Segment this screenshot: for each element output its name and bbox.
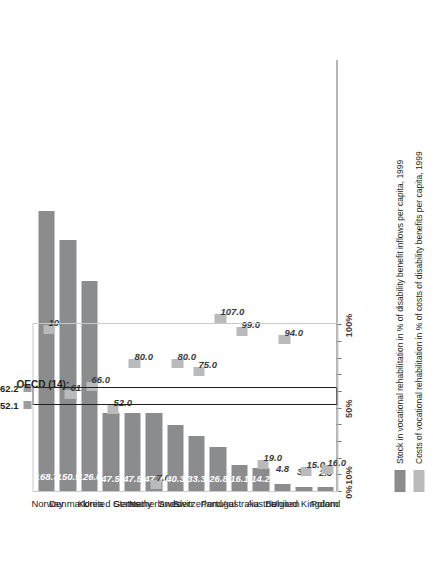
oecd-reference-label-0: 52.1 bbox=[0, 400, 18, 411]
marker-denmark: 61.0 bbox=[64, 390, 75, 399]
bar-austria: 14.2 bbox=[252, 468, 268, 492]
axis-tick-label: 0% bbox=[343, 485, 353, 498]
legend-swatch-costs-icon bbox=[413, 470, 424, 492]
marker-value-label: 80.0 bbox=[134, 350, 153, 361]
marker-belgium: 94.0 bbox=[278, 335, 289, 344]
bar-germany: 47.5 bbox=[124, 413, 140, 492]
axis-tick-label: 50% bbox=[343, 399, 353, 418]
marker-value-label: 80.0 bbox=[177, 350, 196, 361]
axis-tick bbox=[336, 424, 341, 425]
axis-tick bbox=[336, 491, 341, 492]
axis-tick bbox=[336, 358, 341, 359]
marker-germany: 80.0 bbox=[128, 359, 139, 368]
chart-canvas: 0%10%50%100% 168.7100.0150.961.0126.666.… bbox=[0, 0, 437, 566]
legend-label-costs: Costs of vocational rehabilitation in % … bbox=[413, 151, 423, 464]
bar-denmark: 150.9 bbox=[59, 241, 75, 493]
bar-united-states: 47.5 bbox=[102, 413, 118, 492]
bar-value-label: 150.9 bbox=[56, 471, 80, 482]
marker-value-label: 66.0 bbox=[91, 374, 110, 385]
bar-united-kingdom: 3.1 bbox=[295, 487, 311, 492]
marker-value-label: 99.0 bbox=[241, 319, 260, 330]
marker-netherlands: 7.0 bbox=[150, 480, 161, 489]
marker-norway: 100.0 bbox=[43, 325, 54, 334]
axis-tick bbox=[336, 341, 341, 342]
oecd-reference-bracket-1 bbox=[336, 388, 337, 405]
oecd-reference-title: OECD (14): bbox=[16, 379, 69, 390]
marker-value-label: 19.0 bbox=[263, 452, 282, 463]
legend-swatch-stock-icon bbox=[394, 470, 405, 492]
marker-value-label: 75.0 bbox=[198, 359, 217, 370]
bar-poland: 2.8 bbox=[317, 487, 333, 492]
bar-value-label: 40.3 bbox=[166, 473, 185, 484]
axis-tick bbox=[336, 374, 341, 375]
bar-portugal: 26.8 bbox=[209, 447, 225, 492]
axis-tick bbox=[336, 474, 341, 475]
legend-label-stock: Stock in vocational rehabilitation in % … bbox=[394, 160, 404, 464]
bar-value-label: 4.8 bbox=[275, 463, 288, 474]
bar-switzerland: 33.3 bbox=[188, 437, 204, 493]
marker-value-label: 16.0 bbox=[327, 457, 346, 468]
marker-austria: 19.0 bbox=[257, 460, 268, 469]
axis-tick-label: 10% bbox=[343, 466, 353, 485]
marker-united-states: 52.0 bbox=[107, 405, 118, 414]
marker-sweden: 80.0 bbox=[171, 359, 182, 368]
marker-value-label: 94.0 bbox=[284, 327, 303, 338]
oecd-reference-bracket-0 bbox=[32, 388, 33, 405]
marker-portugal: 107.0 bbox=[214, 314, 225, 323]
bar-value-label: 126.6 bbox=[77, 471, 101, 482]
bar-value-label: 16.1 bbox=[230, 473, 249, 484]
bar-sweden: 40.3 bbox=[167, 425, 183, 492]
oecd-reference-marker-0 bbox=[23, 401, 31, 409]
oecd-reference-line-0 bbox=[32, 404, 336, 405]
axis-tick-label: 100% bbox=[343, 313, 353, 337]
marker-united-kingdom: 15.0 bbox=[300, 467, 311, 476]
marker-poland: 16.0 bbox=[321, 465, 332, 474]
bar-norway: 168.7 bbox=[38, 211, 54, 492]
oecd-reference-label-1: 62.2 bbox=[0, 383, 18, 394]
marker-value-label: 52.0 bbox=[113, 397, 132, 408]
oecd-reference-line-1 bbox=[32, 387, 336, 388]
axis-tick bbox=[336, 408, 341, 409]
marker-value-label: 107.0 bbox=[220, 305, 244, 316]
category-label-poland: Poland bbox=[310, 498, 340, 509]
marker-switzerland: 75.0 bbox=[193, 367, 204, 376]
bar-belgium: 4.8 bbox=[274, 484, 290, 492]
marker-australia: 99.0 bbox=[236, 327, 247, 336]
axis-tick bbox=[336, 324, 341, 325]
bar-value-label: 47.5 bbox=[101, 473, 120, 484]
bar-value-label: 47.5 bbox=[123, 473, 142, 484]
bar-value-label: 33.3 bbox=[187, 473, 206, 484]
bar-australia: 16.1 bbox=[231, 465, 247, 492]
plot-area: 168.7100.0150.961.0126.666.047.552.047.5… bbox=[36, 62, 336, 492]
bar-value-label: 14.2 bbox=[251, 473, 270, 484]
bar-value-label: 168.7 bbox=[34, 471, 58, 482]
axis-tick bbox=[336, 441, 341, 442]
bar-value-label: 26.8 bbox=[208, 473, 227, 484]
